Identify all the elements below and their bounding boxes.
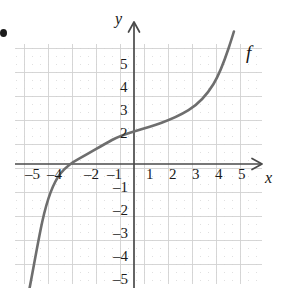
y-tick-5: 5 [120,57,128,72]
x-tick-minus4: –4 [47,167,62,182]
x-tick-2: 2 [169,167,177,182]
function-graph-figure: y x f –5 –4 –2 –1 1 2 3 4 5 5 4 3 2 –1 –… [0,0,287,288]
grid-layer [15,42,262,284]
x-tick-4: 4 [215,167,223,182]
coordinate-plane [0,0,287,288]
y-tick-minus2: –2 [113,203,128,218]
x-tick-1: 1 [146,167,154,182]
x-tick-minus2: –2 [84,167,99,182]
x-tick-3: 3 [192,167,200,182]
y-axis-label: y [115,11,122,27]
y-tick-minus3: –3 [113,226,128,241]
x-tick-minus5: –5 [25,167,40,182]
x-tick-5: 5 [238,167,246,182]
y-tick-minus1: –1 [113,180,128,195]
curve-label-f: f [246,43,251,62]
y-tick-minus4: –4 [113,249,128,264]
x-axis-label: x [265,170,272,186]
y-tick-4: 4 [120,80,128,95]
y-tick-2: 2 [120,126,128,141]
y-tick-minus5: –5 [113,272,128,287]
y-tick-3: 3 [120,103,128,118]
